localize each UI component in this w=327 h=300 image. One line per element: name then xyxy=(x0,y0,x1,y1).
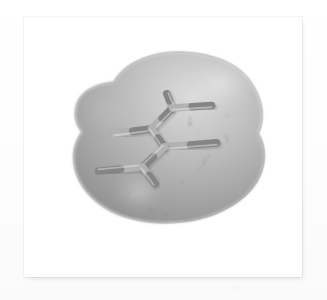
scan-hairline xyxy=(231,221,239,223)
bond-c3-c5 xyxy=(173,105,213,109)
scan-speck xyxy=(226,115,227,116)
scan-speck xyxy=(199,167,200,168)
molecule-scene-svg xyxy=(27,20,299,274)
bond-c6-c7 xyxy=(164,143,217,149)
figure-alt-text: Grayscale rendering of a molecular van d… xyxy=(0,0,1,1)
molecular-surface-canvas xyxy=(27,20,299,274)
scan-speck xyxy=(181,182,183,184)
plate-inner xyxy=(27,20,299,274)
plate-frame xyxy=(24,17,302,277)
scan-speck xyxy=(197,131,198,132)
scan-speck xyxy=(129,192,130,193)
scan-speck xyxy=(190,123,192,125)
scan-speck xyxy=(208,154,210,156)
scan-speck xyxy=(150,209,151,210)
scan-speck xyxy=(166,214,167,215)
scan-speck xyxy=(105,210,106,211)
scan-speck xyxy=(113,176,114,177)
highlight-left-lobe xyxy=(75,89,132,136)
bond-c1-c2 xyxy=(114,129,153,136)
bond-c3-c5-half-dark xyxy=(192,105,212,106)
figure-root: Grayscale rendering of a molecular van d… xyxy=(0,0,327,300)
